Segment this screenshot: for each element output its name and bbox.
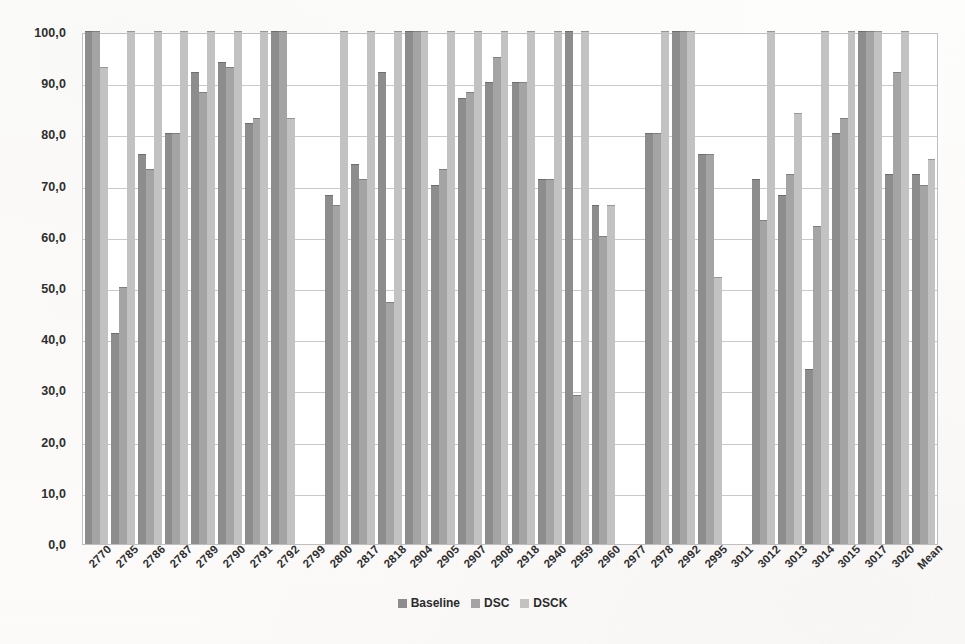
bar (127, 31, 135, 544)
y-tick-label: 20,0 (41, 436, 66, 450)
bars-layer (83, 34, 937, 544)
bar (653, 133, 661, 544)
x-tick-cell: 2977 (617, 548, 644, 596)
y-tick-label: 10,0 (41, 487, 66, 501)
x-tick-cell: 2959 (564, 548, 591, 596)
x-tick-cell: 3020 (885, 548, 912, 596)
bar (680, 31, 688, 544)
x-tick-cell: 3013 (778, 548, 805, 596)
bar-group (697, 34, 724, 544)
x-tick-cell: 2978 (644, 548, 671, 596)
x-tick-cell: 2907 (457, 548, 484, 596)
bar-group (350, 34, 377, 544)
x-tick-cell: 3012 (751, 548, 778, 596)
bar (218, 62, 226, 544)
x-tick-cell: 3017 (858, 548, 885, 596)
x-tick-cell: 2960 (590, 548, 617, 596)
bar (752, 179, 760, 544)
bar-group (750, 34, 777, 544)
bar-group (724, 34, 751, 544)
bar (146, 169, 154, 544)
bar (111, 333, 119, 544)
bar (260, 31, 268, 544)
x-tick-cell: 2940 (537, 548, 564, 596)
scan-bleed-text (150, 12, 153, 27)
bar (199, 92, 207, 544)
bar (340, 31, 348, 544)
bar (527, 31, 535, 544)
bar (565, 31, 573, 544)
bar-group (323, 34, 350, 544)
bar-group (510, 34, 537, 544)
bar (519, 82, 527, 544)
legend-item[interactable]: Baseline (398, 596, 460, 610)
x-tick-cell: Mean (911, 548, 938, 596)
bar (767, 31, 775, 544)
bar (546, 179, 554, 544)
bar (813, 226, 821, 544)
bar (405, 31, 413, 544)
bar (253, 118, 261, 544)
x-tick-cell: 2905 (430, 548, 457, 596)
bar-group (163, 34, 190, 544)
bar (805, 369, 813, 544)
x-tick-cell: 2818 (376, 548, 403, 596)
x-tick-cell: 2918 (510, 548, 537, 596)
bar (698, 154, 706, 544)
bar (378, 72, 386, 544)
bar (760, 220, 768, 544)
y-tick-label: 0,0 (48, 538, 66, 552)
bar (538, 179, 546, 544)
bar-group (643, 34, 670, 544)
bar-group (910, 34, 937, 544)
bar (672, 31, 680, 544)
bar-group (617, 34, 644, 544)
legend-item[interactable]: DSCK (520, 596, 567, 610)
bar (439, 169, 447, 544)
bar (466, 92, 474, 544)
bar (821, 31, 829, 544)
x-tick-cell: 3014 (804, 548, 831, 596)
x-tick-cell: 2817 (350, 548, 377, 596)
bar (794, 113, 802, 544)
bar (207, 31, 215, 544)
x-tick-cell: 2770 (82, 548, 109, 596)
bar (874, 31, 882, 544)
bar (832, 133, 840, 544)
x-tick-cell: 2992 (671, 548, 698, 596)
bar-group (83, 34, 110, 544)
bar (687, 31, 695, 544)
bar-group (190, 34, 217, 544)
plot-area (82, 33, 938, 545)
bar (840, 118, 848, 544)
bar (85, 31, 93, 544)
bar-group (563, 34, 590, 544)
bar (866, 31, 874, 544)
legend-item[interactable]: DSC (471, 596, 509, 610)
x-tick-cell: 3015 (831, 548, 858, 596)
x-tick-cell: 2908 (483, 548, 510, 596)
bar (928, 159, 936, 544)
x-tick-cell: 2789 (189, 548, 216, 596)
bar (386, 302, 394, 544)
bar-group (590, 34, 617, 544)
bar-group (136, 34, 163, 544)
bar-group (830, 34, 857, 544)
bar (912, 174, 920, 544)
bar (367, 31, 375, 544)
x-tick-cell: 2800 (323, 548, 350, 596)
bar-group (457, 34, 484, 544)
bar (920, 185, 928, 544)
bar-group (884, 34, 911, 544)
bar (279, 31, 287, 544)
bar-group (430, 34, 457, 544)
bar (234, 31, 242, 544)
y-tick-label: 90,0 (41, 77, 66, 91)
bar (474, 31, 482, 544)
legend-swatch-icon (520, 599, 529, 608)
bar (501, 31, 509, 544)
y-tick-label: 80,0 (41, 128, 66, 142)
bar-group (297, 34, 324, 544)
bar (706, 154, 714, 544)
y-tick-label: 60,0 (41, 231, 66, 245)
